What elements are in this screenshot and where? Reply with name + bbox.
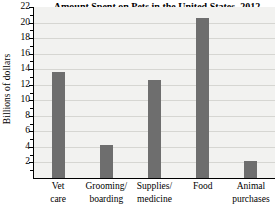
bar [100,145,113,178]
y-axis-major-tick [29,100,33,101]
y-axis-minor-tick [30,108,33,109]
bars-layer [34,7,275,178]
y-axis-minor-tick [30,93,33,94]
bar [244,161,257,178]
y-axis-minor-tick [30,77,33,78]
y-axis-major-tick [29,69,33,70]
y-axis-minor-tick [30,30,33,31]
bar [52,72,65,178]
y-axis-major-tick [29,85,33,86]
bar-chart: Amount Spent on Pets in the United State… [0,0,280,208]
y-axis-minor-tick [30,46,33,47]
y-axis-major-tick [29,23,33,24]
x-axis-tick-label: Animalpurchases [223,180,279,206]
y-axis-title-text: Billions of dollars [2,54,12,125]
bar [196,18,209,178]
y-axis-major-tick [29,116,33,117]
x-axis-tick-labels: VetcareGrooming/boardingSupplies/medicin… [34,180,275,208]
bar [148,80,161,178]
y-axis-major-tick [29,7,33,8]
y-axis-minor-tick [30,139,33,140]
y-axis-minor-tick [30,170,33,171]
y-axis-major-tick [29,131,33,132]
x-axis-line [33,178,275,179]
y-axis-major-tick [29,162,33,163]
y-axis-minor-tick [30,15,33,16]
y-axis-major-tick [29,147,33,148]
y-axis-tick-labels: 246810121416182022 [14,0,31,178]
y-axis-minor-tick [30,124,33,125]
y-axis-minor-tick [30,155,33,156]
y-axis-minor-tick [30,61,33,62]
y-axis-major-tick [29,54,33,55]
y-axis-title: Billions of dollars [0,0,14,178]
y-axis-major-tick [29,38,33,39]
